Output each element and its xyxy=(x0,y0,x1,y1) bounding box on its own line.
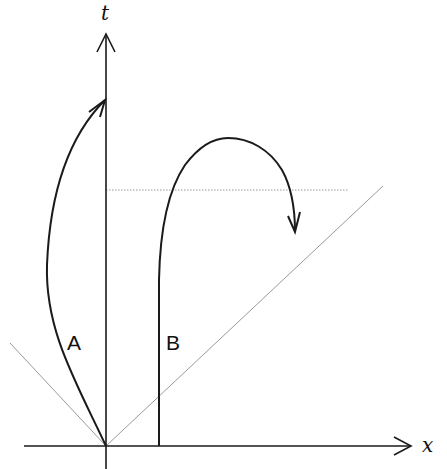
spacetime-diagram: t x A B xyxy=(0,0,447,469)
t-axis-label: t xyxy=(101,1,110,25)
light-cone-right xyxy=(106,186,383,446)
worldline-a-label: A xyxy=(67,331,81,354)
x-axis-label: x xyxy=(422,433,433,457)
worldline-a xyxy=(47,100,106,446)
worldline-b xyxy=(159,138,295,446)
light-cone-left xyxy=(10,343,106,446)
worldline-b-label: B xyxy=(166,331,180,354)
